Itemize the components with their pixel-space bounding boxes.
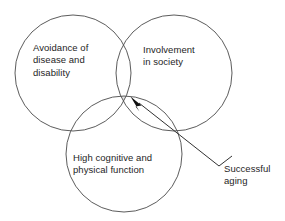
triple-intersection-shading [0, 0, 285, 221]
venn-svg-canvas [0, 0, 285, 221]
label-high-cognitive-and-physical-function: High cognitive and physical function [73, 152, 183, 177]
circle-involvement-in-society [116, 15, 232, 131]
label-avoidance-of-disease-and-disability: Avoidance of disease and disability [33, 42, 111, 79]
label-successful-aging: Successful aging [224, 163, 284, 188]
shaded-overlap-area [0, 0, 285, 221]
label-involvement-in-society: Involvement in society [143, 44, 217, 69]
venn-diagram: Avoidance of disease and disability Invo… [0, 0, 285, 221]
